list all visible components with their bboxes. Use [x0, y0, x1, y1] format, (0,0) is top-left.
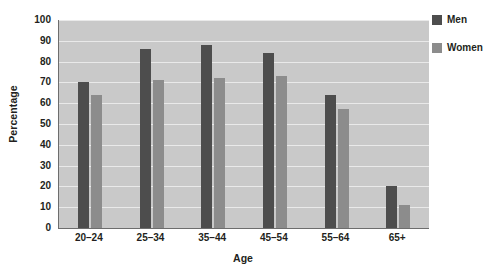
legend-swatch-women — [432, 43, 442, 53]
bar-group — [325, 20, 349, 228]
y-axis-title-label: Percentage — [7, 85, 19, 143]
bar-group — [386, 20, 410, 228]
bar-men-20–24 — [78, 82, 89, 228]
plot-area — [58, 20, 429, 229]
y-axis-tick-label: 40 — [40, 140, 51, 150]
x-axis-tick-label: 45–54 — [260, 232, 288, 243]
bar-group — [263, 20, 287, 228]
chart-legend: MenWomen — [432, 14, 502, 70]
legend-label-men: Men — [447, 14, 467, 25]
y-axis-tick-label: 90 — [40, 36, 51, 46]
bar-group — [78, 20, 102, 228]
x-axis-title: Age — [58, 252, 428, 264]
y-axis-tick-label: 70 — [40, 77, 51, 87]
bar-men-65+ — [386, 186, 397, 228]
x-axis-tick-label: 25–34 — [137, 232, 165, 243]
bars-layer — [59, 20, 429, 228]
bar-group — [201, 20, 225, 228]
y-axis-tick-label: 0 — [45, 223, 51, 233]
bar-men-45–54 — [263, 53, 274, 228]
bar-group — [140, 20, 164, 228]
y-axis-tick-label: 100 — [34, 15, 51, 25]
legend-swatch-men — [432, 15, 442, 25]
bar-women-55–64 — [338, 109, 349, 228]
bar-women-20–24 — [91, 95, 102, 228]
y-axis-tick-label: 30 — [40, 161, 51, 171]
bar-men-35–44 — [201, 45, 212, 228]
x-axis-tick-label: 35–44 — [198, 232, 226, 243]
legend-item-women: Women — [432, 42, 502, 53]
y-axis-tick-label: 60 — [40, 98, 51, 108]
y-axis-tick-label: 20 — [40, 181, 51, 191]
bar-women-25–34 — [153, 80, 164, 228]
legend-label-women: Women — [447, 42, 483, 53]
bar-women-35–44 — [214, 78, 225, 228]
bar-women-65+ — [399, 205, 410, 228]
x-axis-tick-label: 20–24 — [75, 232, 103, 243]
bar-chart: Percentage 1009080706050403020100 20–242… — [0, 0, 504, 277]
x-axis-tick-label: 65+ — [389, 232, 406, 243]
y-axis-tick-label: 50 — [40, 119, 51, 129]
bar-men-55–64 — [325, 95, 336, 228]
legend-item-men: Men — [432, 14, 502, 25]
y-axis-tick-label: 10 — [40, 202, 51, 212]
bar-men-25–34 — [140, 49, 151, 228]
x-axis-tick-labels: 20–2425–3435–4445–5455–6465+ — [58, 232, 428, 248]
x-axis-tick-label: 55–64 — [322, 232, 350, 243]
y-axis-tick-label: 80 — [40, 57, 51, 67]
bar-women-45–54 — [276, 76, 287, 228]
y-axis-tick-labels: 1009080706050403020100 — [22, 20, 55, 228]
y-axis-title: Percentage — [2, 0, 24, 228]
